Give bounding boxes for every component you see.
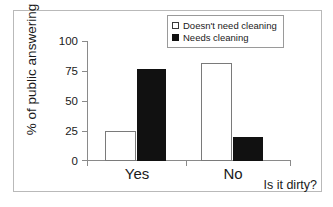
bar-no-needs-cleaning bbox=[233, 137, 263, 161]
chart-legend: Doesn't need cleaning Needs cleaning bbox=[167, 15, 284, 48]
y-tick-label-0: 0 bbox=[38, 156, 78, 168]
y-tick-label-100: 100 bbox=[38, 36, 78, 48]
x-tick-mark-right bbox=[290, 161, 291, 166]
legend-label-needs-cleaning: Needs cleaning bbox=[183, 33, 249, 43]
x-tick-label-yes: Yes bbox=[112, 165, 162, 182]
legend-swatch-filled-icon bbox=[172, 34, 179, 41]
y-tick-label-50: 50 bbox=[38, 96, 78, 108]
legend-item-needs-cleaning: Needs cleaning bbox=[172, 32, 279, 43]
bar-no-doesnt-need-cleaning bbox=[201, 63, 232, 161]
legend-item-doesnt-need-cleaning: Doesn't need cleaning bbox=[172, 20, 279, 31]
bar-yes-needs-cleaning bbox=[137, 69, 166, 161]
y-tick-label-25: 25 bbox=[38, 126, 78, 138]
y-axis-spine bbox=[87, 41, 88, 161]
x-tick-mark-center bbox=[186, 161, 187, 166]
chart-figure: % of public answering 100 75 50 25 0 Yes… bbox=[0, 0, 333, 207]
legend-swatch-open-icon bbox=[172, 22, 179, 29]
x-axis-title: Is it dirty? bbox=[264, 178, 318, 192]
bar-yes-doesnt-need-cleaning bbox=[105, 131, 136, 161]
legend-label-doesnt-need-cleaning: Doesn't need cleaning bbox=[183, 21, 277, 31]
y-tick-label-75: 75 bbox=[38, 66, 78, 78]
x-tick-mark-left bbox=[87, 161, 88, 166]
x-tick-label-no: No bbox=[208, 165, 258, 182]
y-axis-title: % of public answering bbox=[24, 1, 39, 138]
